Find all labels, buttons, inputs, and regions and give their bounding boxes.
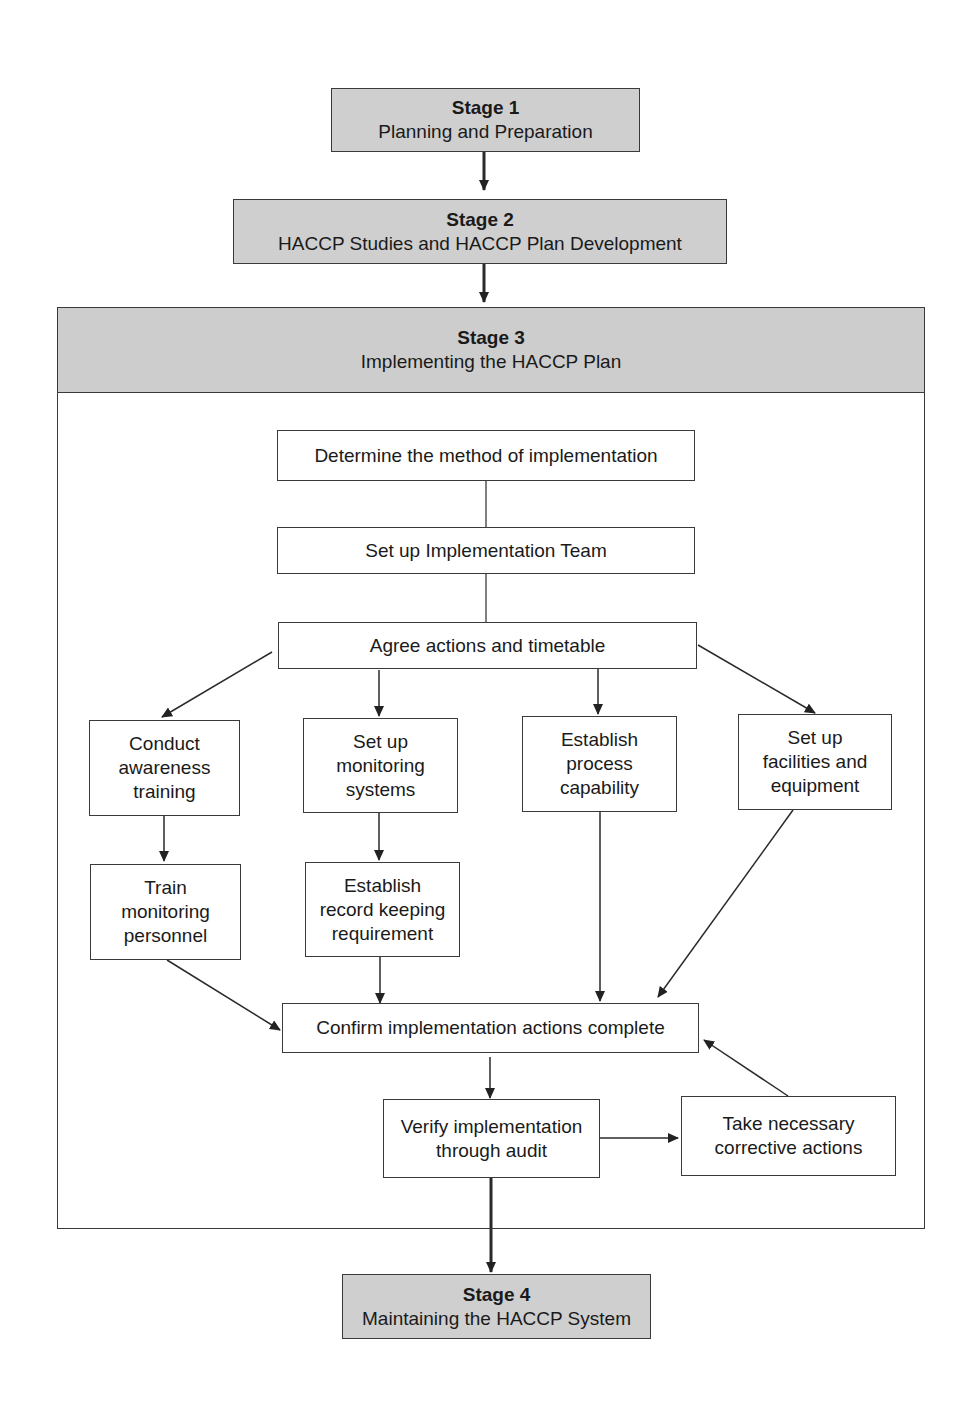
step-label-line: monitoring bbox=[336, 754, 425, 778]
stage-3-header: Stage 3 Implementing the HACCP Plan bbox=[58, 308, 924, 393]
step-confirm-complete: Confirm implementation actions complete bbox=[282, 1003, 699, 1053]
step-agree-actions: Agree actions and timetable bbox=[278, 622, 697, 669]
step-label-line: Set up bbox=[353, 730, 408, 754]
step-record-keeping: Establish record keeping requirement bbox=[305, 862, 460, 957]
step-label-line: awareness bbox=[119, 756, 211, 780]
step-train-personnel: Train monitoring personnel bbox=[90, 864, 241, 960]
stage-4-box: Stage 4 Maintaining the HACCP System bbox=[342, 1274, 651, 1339]
stage-3-title: Stage 3 bbox=[457, 326, 525, 350]
step-label-line: Take necessary bbox=[722, 1112, 854, 1136]
step-process-capability: Establish process capability bbox=[522, 716, 677, 812]
step-label-line: equipment bbox=[771, 774, 860, 798]
step-label-line: Establish bbox=[344, 874, 421, 898]
step-determine-method: Determine the method of implementation bbox=[277, 430, 695, 481]
step-facilities-equipment: Set up facilities and equipment bbox=[738, 714, 892, 810]
step-label-line: requirement bbox=[332, 922, 433, 946]
stage-4-title: Stage 4 bbox=[463, 1283, 531, 1307]
step-label-line: Verify implementation bbox=[401, 1115, 583, 1139]
step-label-line: Set up bbox=[788, 726, 843, 750]
step-monitoring-systems: Set up monitoring systems bbox=[303, 718, 458, 813]
step-label: Determine the method of implementation bbox=[314, 444, 657, 468]
step-label-line: training bbox=[133, 780, 195, 804]
stage-2-subtitle: HACCP Studies and HACCP Plan Development bbox=[278, 232, 682, 256]
stage-1-subtitle: Planning and Preparation bbox=[378, 120, 592, 144]
step-label-line: Conduct bbox=[129, 732, 200, 756]
step-label-line: capability bbox=[560, 776, 639, 800]
stage-1-title: Stage 1 bbox=[452, 96, 520, 120]
step-label-line: through audit bbox=[436, 1139, 547, 1163]
step-label-line: corrective actions bbox=[715, 1136, 863, 1160]
step-setup-team: Set up Implementation Team bbox=[277, 527, 695, 574]
step-awareness-training: Conduct awareness training bbox=[89, 720, 240, 816]
step-label: Agree actions and timetable bbox=[370, 634, 606, 658]
step-label-line: monitoring bbox=[121, 900, 210, 924]
stage-1-box: Stage 1 Planning and Preparation bbox=[331, 88, 640, 152]
stage-2-box: Stage 2 HACCP Studies and HACCP Plan Dev… bbox=[233, 199, 727, 264]
step-label-line: systems bbox=[346, 778, 416, 802]
step-label-line: personnel bbox=[124, 924, 207, 948]
stage-4-subtitle: Maintaining the HACCP System bbox=[362, 1307, 631, 1331]
step-corrective-actions: Take necessary corrective actions bbox=[681, 1096, 896, 1176]
step-verify-audit: Verify implementation through audit bbox=[383, 1099, 600, 1178]
step-label: Confirm implementation actions complete bbox=[316, 1016, 665, 1040]
stage-2-title: Stage 2 bbox=[446, 208, 514, 232]
stage-3-subtitle: Implementing the HACCP Plan bbox=[361, 350, 622, 374]
step-label-line: facilities and bbox=[763, 750, 868, 774]
step-label-line: record keeping bbox=[320, 898, 446, 922]
step-label-line: process bbox=[566, 752, 633, 776]
step-label-line: Train bbox=[144, 876, 187, 900]
step-label-line: Establish bbox=[561, 728, 638, 752]
step-label: Set up Implementation Team bbox=[365, 539, 607, 563]
